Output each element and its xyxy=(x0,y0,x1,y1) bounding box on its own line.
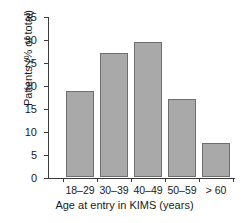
y-axis-tick-label: 5 xyxy=(31,149,37,161)
x-axis-tick xyxy=(165,178,166,182)
y-axis-tick: 35 xyxy=(44,17,48,18)
bar-chart-figure: Patients (% of total) 05101520253035 18–… xyxy=(0,0,249,223)
y-axis-tick: 20 xyxy=(44,86,48,87)
x-axis-tick-label: 30–39 xyxy=(99,184,128,196)
bar xyxy=(168,99,196,177)
y-axis-tick: 30 xyxy=(44,40,48,41)
x-axis-tick xyxy=(63,178,64,182)
y-axis-tick-label: 0 xyxy=(31,172,37,184)
x-axis-tick xyxy=(233,178,234,182)
y-axis-tick-label: 25 xyxy=(25,57,37,69)
bar xyxy=(134,42,162,177)
y-axis-tick: 0 xyxy=(44,178,48,179)
plot-area: 05101520253035 18–2930–3940–4950–59> 60 xyxy=(48,17,235,178)
y-axis-tick-label: 10 xyxy=(25,126,37,138)
x-axis-tick-label: 50–59 xyxy=(167,184,196,196)
bar xyxy=(202,143,230,177)
y-axis-tick-label: 35 xyxy=(25,11,37,23)
x-axis-line xyxy=(48,178,235,179)
bar xyxy=(66,91,94,177)
bar xyxy=(100,53,128,177)
x-axis-tick xyxy=(131,178,132,182)
x-axis-tick-label: 40–49 xyxy=(133,184,162,196)
x-axis-tick-label: > 60 xyxy=(206,184,227,196)
y-axis-tick-label: 30 xyxy=(25,34,37,46)
y-axis-line xyxy=(48,17,49,179)
y-axis-tick: 25 xyxy=(44,63,48,64)
x-axis-title: Age at entry in KIMS (years) xyxy=(0,199,249,211)
y-axis-tick: 5 xyxy=(44,155,48,156)
y-axis-tick-label: 15 xyxy=(25,103,37,115)
y-axis-tick-label: 20 xyxy=(25,80,37,92)
x-axis-tick xyxy=(97,178,98,182)
x-axis-tick-label: 18–29 xyxy=(65,184,94,196)
y-axis-tick: 10 xyxy=(44,132,48,133)
y-axis-tick: 15 xyxy=(44,109,48,110)
x-axis-tick xyxy=(199,178,200,182)
